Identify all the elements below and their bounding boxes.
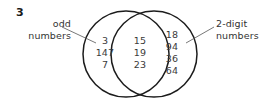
right-set-label: 2-digit numbers xyxy=(216,18,271,41)
region-left-only-value: 7 xyxy=(86,59,124,71)
region-intersection: 15 19 23 xyxy=(126,35,154,71)
region-left-only-value: 147 xyxy=(86,47,124,59)
right-set-label-line-1: 2-digit xyxy=(216,18,271,30)
left-set-label-line-1: odd xyxy=(0,18,71,30)
right-set-label-line-2: numbers xyxy=(216,30,271,42)
region-right-only-value: 36 xyxy=(158,53,186,65)
left-set-label: odd numbers xyxy=(0,18,71,41)
region-right-only-value: 64 xyxy=(158,65,186,77)
region-right-only-value: 94 xyxy=(158,41,186,53)
right-label-leader-line xyxy=(186,27,214,43)
region-left-only-value: 3 xyxy=(86,35,124,47)
venn-diagram-figure: 3 odd numbers 2-digit numbers 3 147 7 15… xyxy=(0,0,271,106)
left-set-label-line-2: numbers xyxy=(0,30,71,42)
region-right-only: 18 94 36 64 xyxy=(158,29,186,77)
region-right-only-value: 18 xyxy=(158,29,186,41)
region-intersection-value: 23 xyxy=(126,59,154,71)
region-intersection-value: 15 xyxy=(126,35,154,47)
region-intersection-value: 19 xyxy=(126,47,154,59)
region-left-only: 3 147 7 xyxy=(86,35,124,71)
